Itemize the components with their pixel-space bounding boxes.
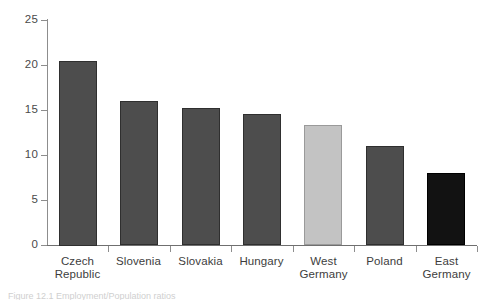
- bar: [59, 61, 97, 246]
- x-axis-tick: [477, 246, 478, 252]
- y-axis-tick: [41, 110, 47, 111]
- x-axis-category-label: Hungary: [231, 255, 292, 268]
- bar: [304, 125, 342, 245]
- y-axis-tick: [41, 20, 47, 21]
- x-axis-category-label: Slovenia: [108, 255, 169, 268]
- figure-caption: Figure 12.1 Employment/Population ratios: [8, 291, 478, 300]
- bar: [182, 108, 220, 245]
- y-axis-tick: [41, 155, 47, 156]
- x-axis-category-label: Slovakia: [170, 255, 231, 268]
- x-axis-tick: [108, 246, 109, 252]
- y-axis-tick: [41, 200, 47, 201]
- x-axis-tick: [354, 246, 355, 252]
- x-axis-tick: [293, 246, 294, 252]
- y-axis-tick-label: 20: [6, 59, 38, 71]
- x-axis-tick: [231, 246, 232, 252]
- y-axis-tick: [41, 65, 47, 66]
- bar: [120, 101, 158, 245]
- y-axis-tick-label: 5: [6, 194, 38, 206]
- x-axis-category-label: West Germany: [293, 255, 354, 280]
- x-axis-tick: [170, 246, 171, 252]
- x-axis-tick: [416, 246, 417, 252]
- bar: [427, 173, 465, 245]
- x-axis-category-label: Czech Republic: [47, 255, 108, 280]
- y-axis-tick-label: 0: [6, 239, 38, 251]
- y-axis-tick: [41, 245, 47, 246]
- y-axis-tick-label: 15: [6, 104, 38, 116]
- bar: [243, 114, 281, 245]
- x-axis-category-label: East Germany: [416, 255, 477, 280]
- x-axis-line: [47, 245, 477, 246]
- x-axis-category-label: Poland: [354, 255, 415, 268]
- bar-chart: 0510152025 Czech RepublicSloveniaSlovaki…: [0, 0, 483, 300]
- bar: [366, 146, 404, 245]
- y-axis-tick-label: 10: [6, 149, 38, 161]
- plot-area: 0510152025 Czech RepublicSloveniaSlovaki…: [0, 0, 483, 300]
- y-axis-line: [47, 19, 48, 246]
- y-axis-tick-label: 25: [6, 14, 38, 26]
